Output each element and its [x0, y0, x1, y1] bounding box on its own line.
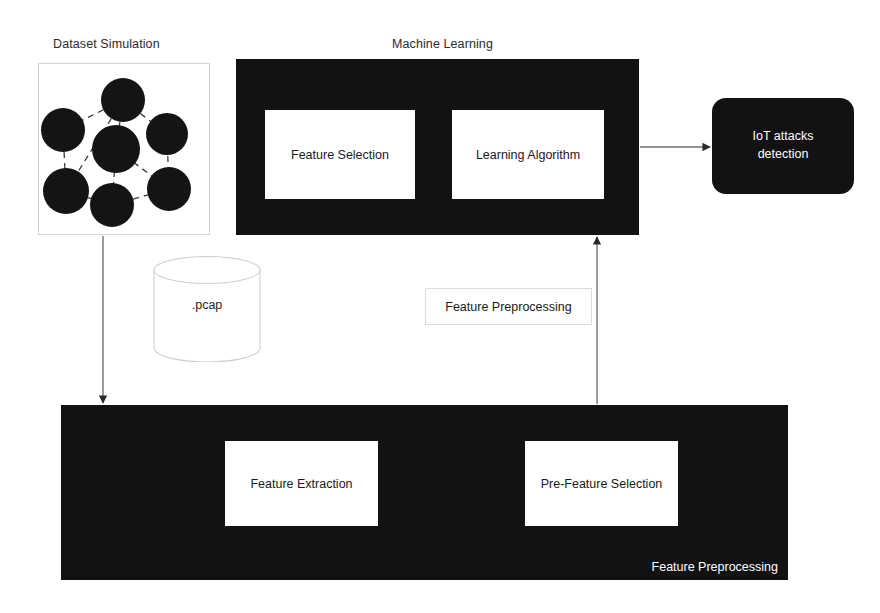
dataset-simulation-panel: [38, 63, 210, 235]
iot-label-line-1: IoT attacks: [753, 128, 814, 146]
iot-label-line-2: detection: [753, 146, 814, 164]
iot-attacks-detection-box[interactable]: IoT attacks detection: [712, 98, 854, 194]
feature-preprocessing-block-label: Feature Preprocessing: [620, 558, 778, 576]
dataset-simulation-title: Dataset Simulation: [53, 37, 160, 51]
feature-selection-box[interactable]: Feature Selection: [265, 110, 415, 199]
pcap-label: .pcap: [152, 295, 262, 315]
diagram-canvas: Dataset Simulation: [0, 0, 880, 613]
learning-algorithm-box[interactable]: Learning Algorithm: [452, 110, 604, 199]
feature-extraction-box[interactable]: Feature Extraction: [225, 441, 378, 526]
feature-preprocessing-block: [61, 405, 788, 580]
network-graph-icon: [39, 64, 209, 234]
feature-preprocessing-note: Feature Preprocessing: [425, 288, 592, 325]
pre-feature-selection-box[interactable]: Pre-Feature Selection: [525, 441, 678, 526]
machine-learning-title: Machine Learning: [392, 37, 493, 51]
